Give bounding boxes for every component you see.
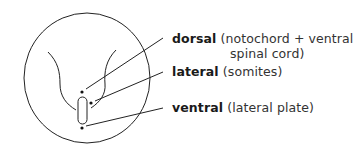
embryo-outline <box>24 13 150 143</box>
label-lateral: lateral (somites) <box>172 64 282 79</box>
label-ventral: ventral (lateral plate) <box>172 100 314 115</box>
left-neural-fold <box>48 52 76 110</box>
ventral-point <box>80 126 83 129</box>
label-ventral-term: ventral <box>172 100 223 115</box>
dorsal-point <box>80 90 83 93</box>
label-dorsal: dorsal (notochord + ventral spinal cord) <box>172 31 353 61</box>
label-dorsal-term: dorsal <box>172 31 216 46</box>
label-lateral-term: lateral <box>172 64 219 79</box>
right-neural-fold <box>91 50 116 108</box>
notochord-oval <box>78 97 87 124</box>
label-lateral-desc: (somites) <box>223 64 283 79</box>
dorsal-leader-line <box>86 38 163 89</box>
label-dorsal-desc: (notochord + ventral <box>221 31 353 46</box>
label-ventral-desc: (lateral plate) <box>227 100 314 115</box>
ventral-leader-line <box>86 108 163 126</box>
label-dorsal-desc-line2: spinal cord) <box>172 46 353 61</box>
lateral-point <box>89 101 92 104</box>
